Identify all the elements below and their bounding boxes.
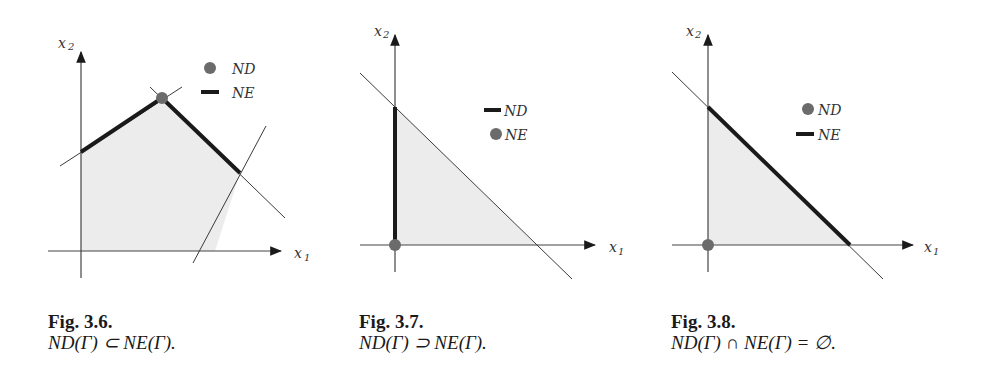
legend-label-nd: ND — [231, 61, 255, 77]
caption-title: Fig. 3.7. — [359, 311, 487, 332]
legend-label-ne: NE — [504, 127, 527, 143]
constraint-line — [672, 72, 883, 279]
x1-axis-label: x1 — [294, 245, 310, 263]
feasible-region — [81, 98, 240, 251]
legend-label-ne: NE — [231, 85, 254, 101]
feasible-region — [708, 107, 850, 245]
ne-point — [389, 239, 401, 251]
legend-dot-icon — [204, 62, 216, 74]
legend: ND NE — [796, 102, 841, 143]
caption-title: Fig. 3.8. — [671, 311, 836, 332]
figure-3-6: x2 x1 ND NE Fig. 3.6. ND(Γ) ⊂ NE(Γ). — [0, 0, 330, 371]
legend-label-nd: ND — [503, 103, 527, 119]
constraint-line — [360, 73, 572, 279]
legend-dot-icon — [802, 103, 814, 115]
legend: ND NE — [484, 103, 527, 143]
x1-axis-label: x1 — [924, 239, 939, 257]
feasible-region — [395, 107, 536, 245]
caption-formula: ND(Γ) ∩ NE(Γ) = ∅. — [671, 332, 836, 353]
figure-caption: Fig. 3.6. ND(Γ) ⊂ NE(Γ). — [48, 311, 176, 353]
figure-3-6-plot: x2 x1 ND NE — [0, 0, 330, 300]
ne-set — [708, 107, 850, 245]
nd-point — [156, 92, 168, 104]
figure-caption: Fig. 3.7. ND(Γ) ⊃ NE(Γ). — [359, 311, 487, 353]
legend-label-ne: NE — [817, 127, 840, 143]
legend: ND NE — [201, 61, 255, 101]
caption-formula: ND(Γ) ⊂ NE(Γ). — [48, 332, 176, 353]
x2-axis-label: x2 — [686, 23, 701, 40]
nd-point — [702, 239, 714, 251]
legend-dot-icon — [490, 128, 502, 140]
caption-formula: ND(Γ) ⊃ NE(Γ). — [359, 332, 487, 353]
x2-axis-label: x2 — [374, 23, 389, 40]
x1-axis-label: x1 — [609, 239, 624, 257]
legend-label-nd: ND — [817, 102, 841, 118]
x2-axis-label: x2 — [58, 35, 74, 52]
caption-title: Fig. 3.6. — [48, 311, 176, 332]
figure-caption: Fig. 3.8. ND(Γ) ∩ NE(Γ) = ∅. — [671, 311, 836, 353]
